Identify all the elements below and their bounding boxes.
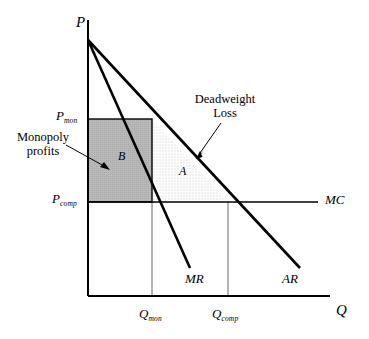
deadweight-loss-annotation: Deadweight Loss [182,92,268,120]
deadweight-annotation-arrow-line [200,123,221,153]
region-a-fill [152,119,228,202]
monopoly-profits-line-2: profits [8,144,78,158]
x-axis-label: Q [336,302,347,319]
q-comp-symbol: Q [212,306,221,321]
deadweight-loss-line-1: Deadweight [182,92,268,106]
q-comp-subscript: comp [221,314,238,323]
q-mon-subscript: mon [148,314,162,323]
deadweight-annotation-arrowhead-2 [196,151,203,159]
monopoly-deadweight-loss-figure: P Q Pmon Pcomp Qmon Qcomp MR AR MC B A D… [0,0,369,339]
deadweight-loss-line-2: Loss [182,106,268,120]
p-comp-subscript: comp [60,199,77,208]
p-comp-tick-label: Pcomp [52,192,77,207]
p-mon-subscript: mon [64,116,78,125]
monopoly-profits-line-1: Monopoly [8,130,78,144]
q-comp-tick-label: Qcomp [212,307,238,322]
mc-curve-label: MC [325,193,345,208]
monopoly-profits-annotation: Monopoly profits [8,130,78,158]
y-axis-label: P [76,14,85,31]
q-mon-symbol: Q [139,306,148,321]
region-b-label: B [118,150,125,163]
q-mon-tick-label: Qmon [139,307,162,322]
mr-curve-label: MR [185,272,204,287]
p-mon-symbol: P [56,108,64,123]
p-comp-symbol: P [52,191,60,206]
region-a-label: A [179,165,186,178]
ar-curve-label: AR [282,272,298,287]
p-mon-tick-label: Pmon [56,109,77,124]
